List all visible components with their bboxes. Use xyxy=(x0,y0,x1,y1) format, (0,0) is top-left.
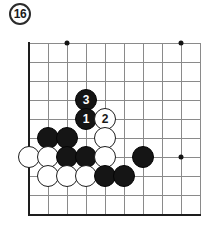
star-point xyxy=(65,41,70,46)
grid-line-horizontal xyxy=(29,81,200,82)
stone-black[interactable] xyxy=(132,146,154,168)
go-problem-figure: 16 312 xyxy=(0,0,217,226)
grid-line-vertical xyxy=(124,43,125,214)
grid-line-vertical xyxy=(143,43,144,214)
stone-black[interactable] xyxy=(113,165,135,187)
stone-move-number: 2 xyxy=(102,113,109,125)
grid-line-horizontal xyxy=(29,195,200,196)
board-edge-bottom xyxy=(28,214,201,216)
star-point xyxy=(179,41,184,46)
go-board[interactable]: 312 xyxy=(0,0,217,226)
grid-line-vertical xyxy=(200,43,201,214)
stone-move-number: 3 xyxy=(83,94,90,106)
stone-move-number: 1 xyxy=(83,113,90,125)
grid-line-vertical xyxy=(181,43,182,214)
board-edge-left xyxy=(28,42,30,216)
grid-line-horizontal xyxy=(29,62,200,63)
grid-line-horizontal xyxy=(29,43,200,44)
star-point xyxy=(179,155,184,160)
grid-line-horizontal xyxy=(29,100,200,101)
grid-line-vertical xyxy=(162,43,163,214)
